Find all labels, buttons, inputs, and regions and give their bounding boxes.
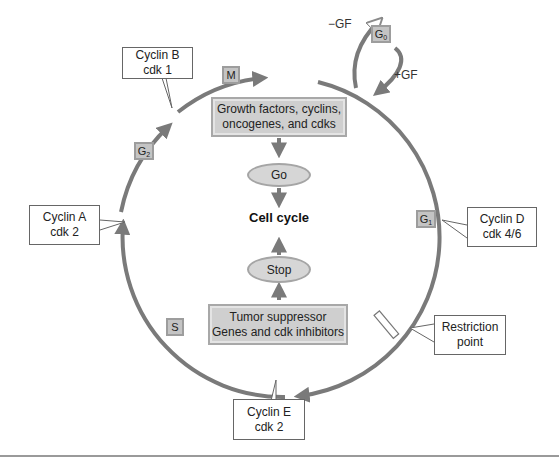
go-label: Go — [271, 168, 287, 182]
cyclin-b-line1: Cyclin B — [123, 48, 192, 63]
phase-s: S — [166, 318, 184, 336]
phase-g0-sub: 0 — [383, 34, 387, 41]
cyclin-a-line2: cdk 2 — [30, 225, 99, 240]
cyclin-d-line2: cdk 4/6 — [468, 227, 536, 242]
promoters-line2: oncogenes, and cdks — [213, 117, 345, 132]
cyclin-e-line1: Cyclin E — [234, 405, 304, 420]
phase-m: M — [222, 66, 240, 84]
callout-tail-cyclin-b — [162, 78, 172, 108]
callout-restriction-point: Restriction point — [434, 315, 506, 355]
callout-cyclin-d: Cyclin D cdk 4/6 — [467, 207, 537, 247]
plus-gf-label: +GF — [394, 68, 418, 82]
bottom-divider — [0, 455, 559, 457]
stop-oval: Stop — [247, 256, 311, 283]
cyclin-e-line2: cdk 2 — [234, 420, 304, 435]
phase-g2: G2 — [134, 142, 154, 160]
phase-s-label: S — [171, 321, 178, 333]
minus-gf-label: −GF — [328, 17, 352, 31]
phase-g0: G0 — [371, 25, 391, 43]
phase-g1: G1 — [416, 210, 436, 228]
suppressors-box: Tumor suppressor Genes and cdk inhibitor… — [208, 304, 348, 345]
callout-cyclin-a: Cyclin A cdk 2 — [29, 205, 100, 245]
phase-g1-sub: 1 — [428, 219, 432, 226]
suppressors-line1: Tumor suppressor — [210, 310, 346, 325]
promoters-box: Growth factors, cyclins, oncogenes, and … — [211, 97, 347, 137]
cyclin-b-line2: cdk 1 — [123, 63, 192, 78]
callout-tail-cyclin-d — [442, 220, 467, 238]
phase-g2-sub: 2 — [146, 151, 150, 158]
restriction-line1: Restriction — [435, 320, 505, 335]
promoters-line1: Growth factors, cyclins, — [213, 102, 345, 117]
restriction-line2: point — [435, 335, 505, 350]
arc-g2 — [121, 127, 168, 212]
cyclin-a-line1: Cyclin A — [30, 210, 99, 225]
callout-cyclin-e: Cyclin E cdk 2 — [233, 399, 305, 440]
cell-cycle-label: Cell cycle — [229, 210, 329, 225]
phase-m-label: M — [226, 69, 235, 81]
suppressors-line2: Genes and cdk inhibitors — [210, 325, 346, 340]
restriction-point-marker — [374, 311, 399, 338]
go-oval: Go — [247, 163, 311, 187]
stop-label: Stop — [267, 263, 292, 277]
callout-cyclin-b: Cyclin B cdk 1 — [122, 47, 193, 79]
cyclin-d-line1: Cyclin D — [468, 212, 536, 227]
